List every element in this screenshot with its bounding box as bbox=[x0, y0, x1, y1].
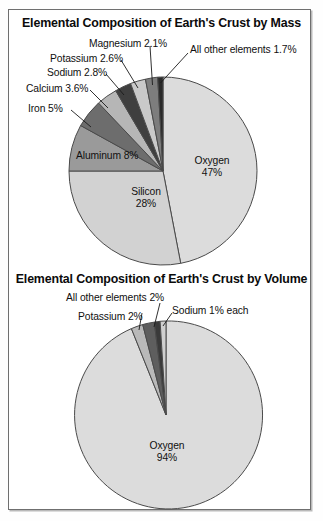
label-silicon-mass-value: 28% bbox=[116, 198, 176, 210]
label-oxygen-volume-value: 94% bbox=[136, 452, 198, 464]
label-silicon-mass: Silicon 28% bbox=[116, 186, 176, 209]
label-calcium-mass: Calcium 3.6% bbox=[26, 83, 88, 94]
label-oxygen-mass-name: Oxygen bbox=[182, 155, 242, 167]
label-oxygen-volume: Oxygen 94% bbox=[136, 440, 198, 463]
label-sodium-mass: Sodium 2.8% bbox=[47, 67, 107, 78]
chart-title-mass: Elemental Composition of Earth's Crust b… bbox=[0, 16, 323, 30]
label-oxygen-mass: Oxygen 47% bbox=[182, 155, 242, 178]
figure-canvas: Elemental Composition of Earth's Crust b… bbox=[0, 0, 323, 521]
label-silicon-mass-name: Silicon bbox=[116, 186, 176, 198]
label-potassium-volume: Potassium 2% bbox=[78, 311, 143, 322]
label-oxygen-mass-value: 47% bbox=[182, 167, 242, 179]
label-iron-mass: Iron 5% bbox=[28, 103, 63, 114]
chart-title-volume: Elemental Composition of Earth's Crust b… bbox=[0, 272, 323, 286]
label-sodium-volume: Sodium 1% each bbox=[172, 305, 248, 316]
label-potassium-mass: Potassium 2.6% bbox=[50, 53, 123, 64]
label-other-elements-mass: All other elements 1.7% bbox=[190, 44, 296, 55]
label-other-elements-volume: All other elements 2% bbox=[66, 292, 164, 303]
label-aluminum-mass: Aluminum 8% bbox=[76, 150, 138, 161]
label-oxygen-volume-name: Oxygen bbox=[136, 440, 198, 452]
label-magnesium-mass: Magnesium 2.1% bbox=[89, 38, 167, 49]
